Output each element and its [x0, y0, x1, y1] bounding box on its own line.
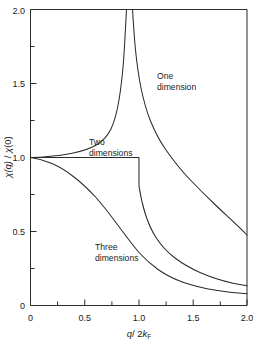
annotation-two-dimensions: Two dimensions — [89, 137, 132, 158]
y-tick-label: 2.0 — [12, 6, 25, 16]
annotation-three-dimensions-line1: Three — [95, 242, 118, 252]
y-tick-labels: 0 0.5 1.0 1.5 2.0 — [12, 6, 25, 311]
annotation-two-dimensions-line1: Two — [89, 137, 105, 147]
x-axis-title-slash: / 2 — [132, 328, 143, 339]
y-tick-label: 1.5 — [12, 79, 25, 89]
x-tick-label: 0.5 — [78, 313, 91, 323]
y-axis-title-slash: / — [2, 153, 13, 161]
annotation-three-dimensions-line2: dimensions — [95, 253, 138, 263]
x-axis-title-sub: F — [147, 333, 151, 340]
y-axis-title-q: (q) — [2, 161, 13, 173]
curve-two-dimensions — [31, 158, 248, 286]
y-axis-title: χ(q) / χ(0) — [2, 136, 13, 179]
x-tick-label: 1.0 — [133, 313, 146, 323]
y-tick-label: 0.5 — [12, 227, 25, 237]
lindhard-susceptibility-figure: 0 0.5 1.0 1.5 2.0 0 0.5 1.0 1.5 2.0 q/ 2… — [0, 0, 258, 341]
curve-one-dimension-left — [31, 10, 127, 158]
x-tick-labels: 0 0.5 1.0 1.5 2.0 — [28, 313, 253, 323]
annotation-two-dimensions-line2: dimensions — [89, 148, 132, 158]
annotation-one-dimension: One dimension — [157, 71, 196, 92]
y-tick-label: 0 — [20, 301, 25, 311]
svg-text:χ(q) / χ(0): χ(q) / χ(0) — [2, 136, 13, 179]
svg-text:q/ 2kF: q/ 2kF — [127, 328, 152, 340]
x-axis-title: q/ 2kF — [127, 328, 152, 340]
chart-svg: 0 0.5 1.0 1.5 2.0 0 0.5 1.0 1.5 2.0 q/ 2… — [0, 0, 258, 341]
annotation-three-dimensions: Three dimensions — [95, 242, 138, 263]
x-tick-label: 0 — [28, 313, 33, 323]
x-tick-label: 1.5 — [187, 313, 200, 323]
annotation-one-dimension-line2: dimension — [157, 82, 196, 92]
annotation-one-dimension-line1: One — [157, 71, 173, 81]
curve-one-dimension-right — [133, 10, 248, 236]
x-tick-label: 2.0 — [241, 313, 254, 323]
x-axis-ticks — [31, 300, 248, 306]
y-tick-label: 1.0 — [12, 153, 25, 163]
y-axis-title-zero: (0) — [2, 136, 13, 148]
